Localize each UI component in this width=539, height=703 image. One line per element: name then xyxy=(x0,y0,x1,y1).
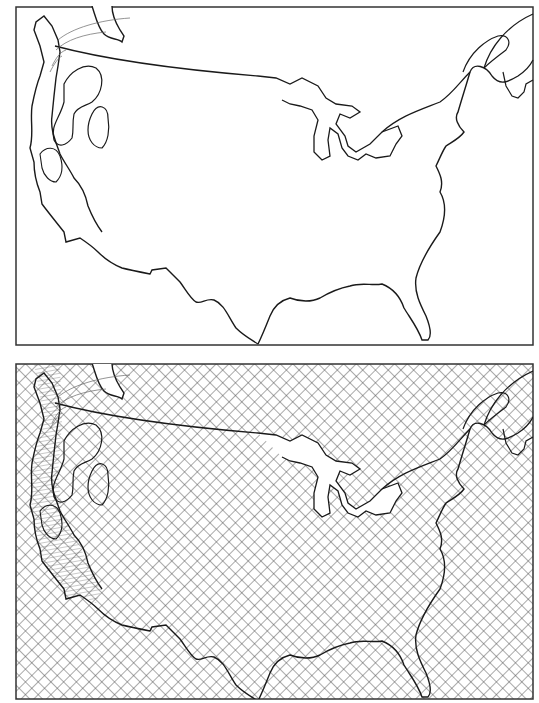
bottom-map-frame xyxy=(16,364,533,699)
bottom-map-panel xyxy=(0,363,539,701)
top-map-frame xyxy=(16,7,533,345)
top-map xyxy=(0,6,539,346)
bottom-map xyxy=(0,363,539,701)
top-map-panel xyxy=(0,6,539,346)
